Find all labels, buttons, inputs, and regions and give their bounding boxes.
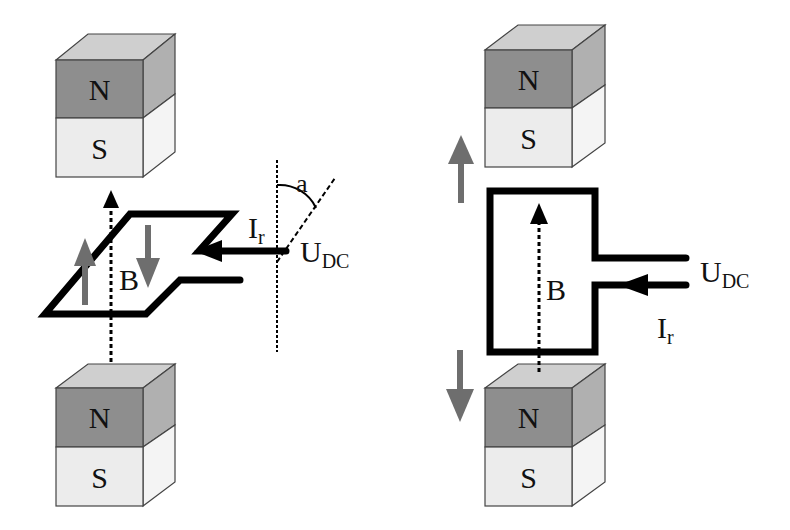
right-panel: N S N S B UDC Ir: [446, 25, 749, 506]
current-label: Ir: [248, 211, 265, 248]
force-arrow-down: [446, 350, 474, 422]
left-top-magnet: N S: [56, 34, 175, 177]
force-arrow-up: [448, 135, 474, 203]
field-label-b: B: [119, 263, 139, 296]
current-arrow-icon: [618, 274, 648, 296]
angle-label: a: [296, 169, 308, 198]
force-arrow-down: [136, 225, 160, 288]
left-bottom-magnet: N S: [56, 364, 175, 506]
right-top-magnet: N S: [485, 25, 605, 167]
current-label: Ir: [657, 311, 674, 348]
north-pole-label: N: [518, 63, 540, 96]
south-pole-label: S: [91, 461, 108, 494]
field-arrow-head-icon: [530, 203, 548, 224]
field-arrow-head-icon: [103, 190, 119, 208]
field-label-b: B: [546, 273, 566, 306]
north-pole-label: N: [89, 401, 111, 434]
south-pole-label: S: [91, 132, 108, 165]
voltage-label: UDC: [700, 255, 749, 292]
north-pole-label: N: [518, 401, 540, 434]
voltage-label: UDC: [300, 235, 349, 272]
left-panel: N S N S B: [45, 34, 349, 506]
south-pole-label: S: [520, 461, 537, 494]
south-pole-label: S: [520, 122, 537, 155]
magnetic-coil-diagram: N S N S B: [0, 0, 790, 530]
right-bottom-magnet: N S: [485, 364, 605, 506]
north-pole-label: N: [89, 73, 111, 106]
